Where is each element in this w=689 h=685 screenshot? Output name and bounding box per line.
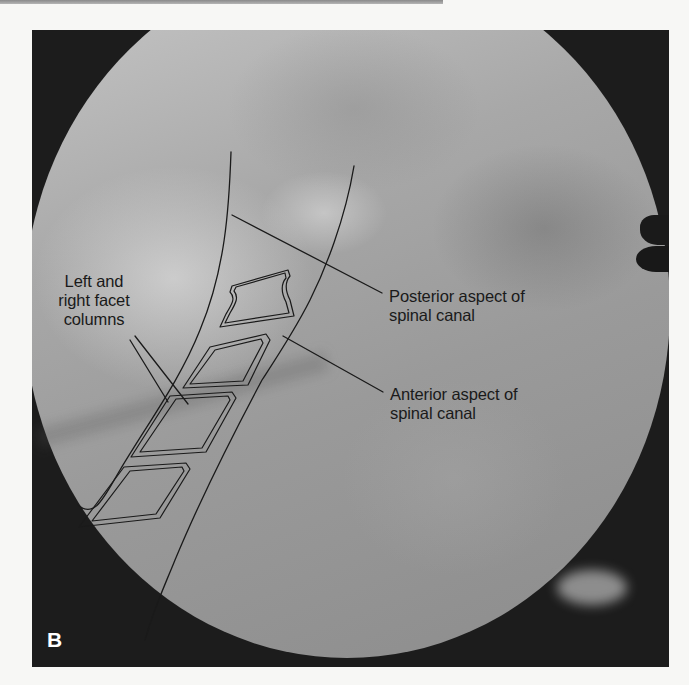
anterior-label-line2: spinal canal: [390, 404, 518, 423]
annotation-drawing: [0, 0, 689, 685]
panel-letter: B: [47, 628, 62, 652]
leader-facet-right: [135, 336, 188, 404]
posterior-canal-label: Posterior aspect of spinal canal: [389, 287, 525, 325]
anterior-canal-line: [145, 166, 354, 640]
anterior-canal-label: Anterior aspect of spinal canal: [390, 385, 518, 423]
facet-c5: [79, 463, 190, 527]
facet-c3: [183, 334, 270, 388]
anterior-label-line1: Anterior aspect of: [390, 385, 518, 404]
leader-anterior: [283, 336, 383, 392]
facet-label-line2: right facet: [44, 291, 144, 310]
posterior-label-line1: Posterior aspect of: [389, 287, 525, 306]
facet-label-line1: Left and: [44, 272, 144, 291]
facet-c4: [131, 392, 236, 457]
facet-columns-label: Left and right facet columns: [44, 272, 144, 329]
posterior-label-line2: spinal canal: [389, 306, 525, 325]
facet-label-line3: columns: [44, 310, 144, 329]
